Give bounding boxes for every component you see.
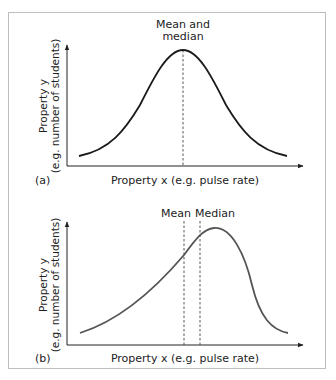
figure-canvas: Mean and median Property y (e.g. number … <box>0 0 336 380</box>
panel-a: Mean and median Property y (e.g. number … <box>35 18 303 187</box>
y-axis-label-a-line1: Property y <box>37 79 49 133</box>
panel-label-a: (a) <box>35 174 50 187</box>
y-axis-label-b-line1: Property y <box>37 258 49 312</box>
x-axis-label-a: Property x (e.g. pulse rate) <box>111 174 259 187</box>
panel-b: Mean Median Property y (e.g. number of s… <box>35 207 303 365</box>
mean-label: Mean <box>161 207 191 220</box>
y-axis-label-b-line2: (e.g. number of students) <box>49 218 61 353</box>
panel-label-b: (b) <box>35 352 51 365</box>
x-axis-label-b: Property x (e.g. pulse rate) <box>111 352 259 365</box>
median-label: Median <box>195 207 235 220</box>
mean-and-median-label-line2: median <box>162 30 203 43</box>
y-axis-label-a-line2: (e.g. number of students) <box>49 39 61 174</box>
